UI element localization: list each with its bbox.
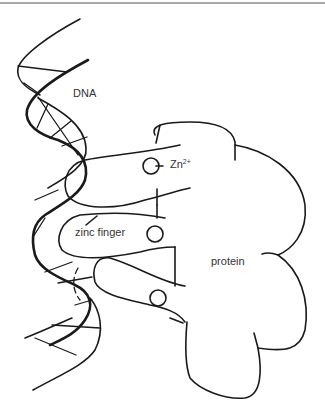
label-zinc-ion: Zn2+ (170, 158, 191, 170)
zinc-finger-link (170, 318, 183, 323)
zinc-finger-diagram: DNA Zn2+ zinc finger protein (0, 0, 325, 415)
base-pair (45, 262, 72, 272)
base-pair (37, 104, 48, 128)
base-pair (38, 97, 78, 155)
label-zinc-finger: zinc finger (75, 226, 125, 238)
zinc-finger-1 (65, 145, 190, 207)
protein-outline-right-lower (254, 255, 306, 350)
zinc-finger-link (86, 216, 97, 225)
base-pair (35, 338, 76, 355)
dna-strand-front (27, 60, 91, 345)
protein-outline-right (235, 145, 305, 255)
zinc-finger-3 (94, 258, 185, 322)
zinc-ions (143, 158, 166, 306)
base-pair (52, 325, 100, 328)
label-protein: protein (211, 255, 245, 267)
zinc-ion-3 (150, 290, 166, 306)
base-pair (24, 83, 38, 93)
dna-helix (18, 19, 101, 390)
zinc-ion-2 (147, 226, 163, 242)
protein-outline-top (154, 122, 235, 160)
label-zinc-symbol: Zn (170, 158, 183, 170)
label-zinc-charge: 2+ (183, 158, 191, 165)
base-pair (35, 190, 58, 200)
base-pair (18, 66, 67, 72)
protein-outline-bottom (186, 322, 260, 398)
dna-strand-lower-left (25, 318, 72, 338)
label-dna: DNA (73, 87, 97, 99)
base-pair (50, 121, 71, 138)
